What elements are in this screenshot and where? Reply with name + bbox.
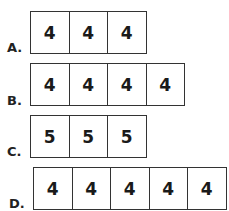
option-b-boxes[interactable]: 4 4 4 4: [30, 63, 185, 106]
option-d-label: D.: [9, 196, 25, 211]
number-box: 4: [70, 12, 109, 53]
option-a-label: A.: [7, 40, 22, 55]
number-box: 4: [73, 168, 112, 209]
number-box: 5: [70, 116, 109, 157]
number-box: 4: [31, 12, 70, 53]
option-a-boxes[interactable]: 4 4 4: [30, 11, 147, 54]
number-box: 4: [108, 64, 147, 105]
number-box: 5: [31, 116, 70, 157]
number-box: 4: [111, 168, 150, 209]
number-box: 4: [31, 64, 70, 105]
option-c-label: C.: [7, 144, 21, 159]
option-d-boxes[interactable]: 4 4 4 4 4: [33, 167, 227, 210]
number-box: 4: [34, 168, 73, 209]
option-b-label: B.: [7, 93, 22, 108]
number-box: 5: [108, 116, 147, 157]
number-box: 4: [150, 168, 189, 209]
number-box: 4: [188, 168, 227, 209]
number-box: 4: [70, 64, 109, 105]
option-c-boxes[interactable]: 5 5 5: [30, 115, 147, 158]
number-box: 4: [147, 64, 186, 105]
number-box: 4: [108, 12, 147, 53]
